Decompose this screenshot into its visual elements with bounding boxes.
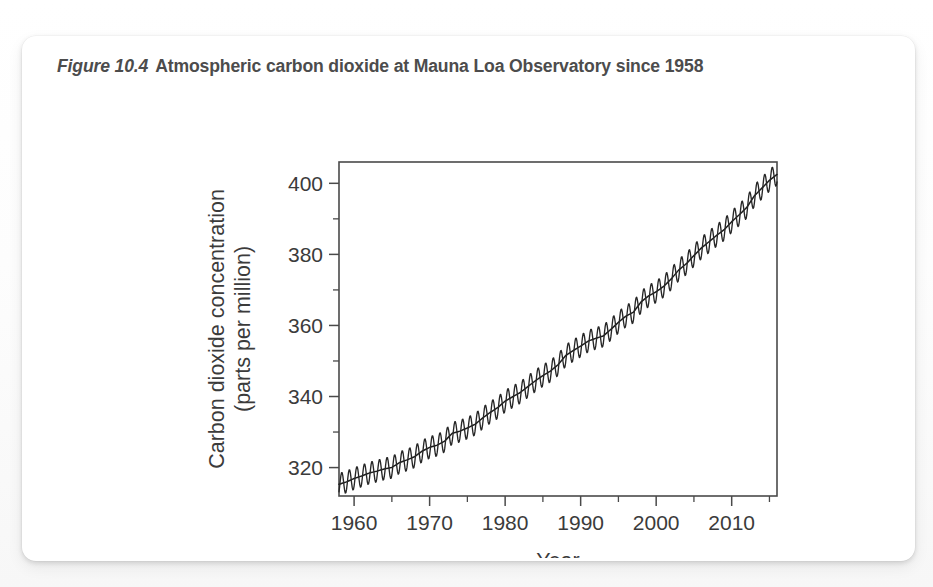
x-tick-label: 2000	[633, 511, 680, 534]
y-tick-label: 360	[288, 314, 323, 337]
figure-caption: Figure 10.4Atmospheric carbon dioxide at…	[57, 56, 887, 77]
x-tick-label: 1960	[331, 511, 378, 534]
x-tick-label: 2010	[708, 511, 755, 534]
figure-number: Figure 10.4	[57, 56, 148, 76]
x-axis-title: Year	[536, 549, 579, 558]
figure-panel: Figure 10.4Atmospheric carbon dioxide at…	[0, 0, 933, 587]
y-tick-label: 320	[288, 456, 323, 479]
y-tick-label: 400	[288, 172, 323, 195]
y-axis-title-line: Carbon dioxide concentration	[205, 189, 229, 469]
y-tick-label: 340	[288, 385, 323, 408]
y-axis-title: Carbon dioxide concentration(parts per m…	[205, 189, 255, 469]
x-tick-label: 1970	[406, 511, 453, 534]
x-tick-label: 1980	[482, 511, 529, 534]
chart-container: 320340360380400196019701980199020002010Y…	[22, 88, 915, 558]
co2-monthly-line	[339, 167, 777, 493]
figure-caption-text: Atmospheric carbon dioxide at Mauna Loa …	[155, 56, 703, 76]
y-axis-title-line: (parts per million)	[231, 246, 255, 412]
keeling-curve-chart: 320340360380400196019701980199020002010Y…	[22, 88, 915, 558]
x-tick-label: 1990	[557, 511, 604, 534]
plot-frame	[339, 162, 777, 496]
figure-card: Figure 10.4Atmospheric carbon dioxide at…	[22, 36, 915, 561]
co2-trend-line	[339, 174, 777, 484]
y-tick-label: 380	[288, 243, 323, 266]
